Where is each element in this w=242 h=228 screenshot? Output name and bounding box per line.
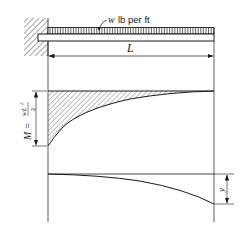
deflection-label: y	[216, 188, 226, 193]
svg-text:wL: wL	[20, 107, 28, 116]
moment-label: M = wL 2 2	[19, 102, 36, 141]
svg-text:2: 2	[19, 102, 24, 105]
moment-diagram: M = wL 2 2	[19, 91, 214, 146]
deflection-diagram: y	[48, 174, 234, 204]
svg-text:2: 2	[30, 107, 36, 111]
distributed-load	[48, 28, 214, 35]
load-unit: lb per ft	[118, 14, 150, 25]
span-label: L	[126, 41, 134, 55]
span-dimension: L	[49, 41, 213, 56]
load-variable: w	[108, 14, 115, 25]
beam	[38, 34, 214, 41]
cantilever-beam-diagram: w lb per ft L M = wL 2 2 y	[0, 0, 242, 228]
svg-text:M =: M =	[22, 122, 33, 141]
